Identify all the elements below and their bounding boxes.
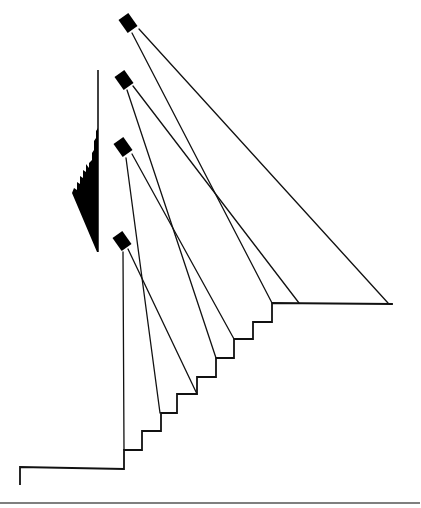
fixture-4-beam-near xyxy=(123,252,124,450)
fixture-2-light-icon xyxy=(114,70,133,90)
fixture-4-light-icon xyxy=(112,231,131,251)
fixture-1-beam-far xyxy=(139,29,388,303)
staircase xyxy=(20,303,392,484)
fixture-2-beam-far xyxy=(133,86,299,303)
wall xyxy=(72,70,98,252)
staircase-profile xyxy=(20,303,392,484)
wall-mounted-element xyxy=(72,128,98,252)
fixture-2-beam-near xyxy=(127,90,216,358)
fixture-3-light-icon xyxy=(113,137,132,157)
staircase-lighting-diagram xyxy=(0,0,421,508)
fixture-3-beam-far xyxy=(132,154,234,339)
light-beams xyxy=(123,29,388,450)
fixture-1-light-icon xyxy=(118,13,137,33)
